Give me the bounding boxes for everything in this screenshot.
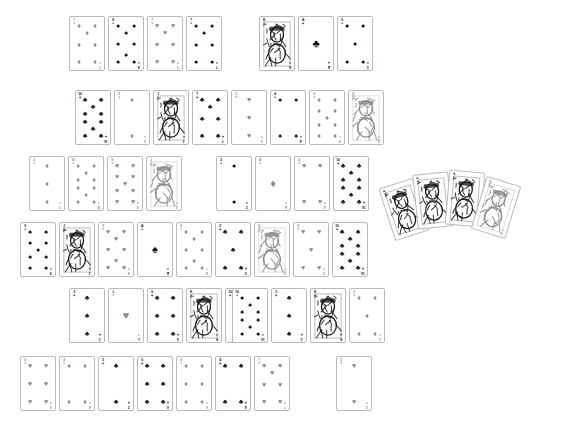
card-j-spades[interactable]: J♠J♠	[153, 90, 189, 145]
card-6-hearts[interactable]: 6♥6♥♥♥♥♥♥♥	[20, 356, 56, 411]
pip-spades: ♠	[44, 253, 48, 260]
pip-diamonds: ♦	[92, 176, 96, 183]
card-7-hearts[interactable]: 7♥7♥♥♥♥♥♥♥♥	[254, 356, 290, 411]
card-5-hearts[interactable]: 5♥5♥♥♥♥♥♥	[293, 222, 329, 277]
pip-spades: ♠	[240, 316, 244, 323]
pip-grid: ♣♣♣♣♣♣♣♣♣♣	[338, 228, 362, 271]
card-6-clubs[interactable]: 6♣6♣♣♣♣♣♣♣	[147, 288, 183, 343]
pip-clubs: ♣	[161, 380, 166, 387]
pip-clubs: ♣	[83, 110, 88, 117]
card-2-clubs[interactable]: 2♣2♣♣♣	[98, 356, 134, 411]
pip-diamonds: ♦	[84, 191, 88, 198]
card-7-clubs[interactable]: 7♣7♣♣♣♣♣♣♣♣	[192, 90, 228, 145]
pip-clubs: ♣	[239, 264, 244, 271]
card-3-hearts[interactable]: 3♥3♥♥♥♥	[231, 90, 267, 145]
card-5-clubs[interactable]: 5♣5♣♣♣♣♣♣	[215, 222, 251, 277]
pip-diamonds: ♦	[76, 176, 80, 183]
card-8-diamonds[interactable]: 8♦8♦♦♦♦♦♦♦♦♦	[176, 222, 212, 277]
card-3-diamonds[interactable]: 3♦3♦♦♦♦	[29, 156, 65, 211]
card-10-clubs[interactable]: 10♣10♣♣♣♣♣♣♣♣♣♣♣	[332, 222, 368, 277]
pip-grid: ♣♣♣♣♣♣	[153, 294, 177, 337]
card-8-spades[interactable]: 8♠8♠♠♠♠♠♠♠♠♠	[108, 16, 144, 71]
pip-clubs: ♣	[200, 96, 205, 103]
pip-clubs: ♣	[145, 398, 150, 405]
pip-hearts: ♥	[28, 380, 32, 387]
pip-diamonds: ♦	[200, 398, 204, 405]
card-10-diamonds[interactable]: 10♦10♦♦♦♦♦♦♦♦♦♦♦	[68, 156, 104, 211]
card-4-diamonds[interactable]: 4♦4♦♦♦♦♦	[59, 356, 95, 411]
pip-clubs: ♣	[99, 118, 104, 125]
card-7-diamonds[interactable]: 7♦7♦♦♦♦♦♦♦♦	[69, 16, 105, 71]
court-figure-icon	[258, 227, 286, 273]
card-k-spades[interactable]: K♠K♠	[186, 288, 222, 343]
pip-spades: ♠	[132, 58, 136, 65]
card-5-spades[interactable]: 5♠5♠♠♠♠♠♠	[337, 16, 373, 71]
card-10-clubs[interactable]: 10♣10♣♣♣♣♣♣♣♣♣♣♣	[333, 156, 369, 211]
pip-grid: ♥♥♥♥♥♥♥♥	[104, 228, 128, 271]
card-6-clubs[interactable]: 6♣6♣♣♣♣♣♣♣	[137, 356, 173, 411]
card-3-clubs[interactable]: 3♣3♣♣♣♣	[69, 288, 105, 343]
pip-diamonds: ♦	[67, 398, 71, 405]
pip-diamonds: ♦	[200, 264, 204, 271]
pip-diamonds: ♦	[76, 184, 80, 191]
pip-grid: ♣♣♣♣♣♣♣♣♣♣	[339, 162, 363, 205]
pip-clubs: ♣	[340, 264, 345, 271]
court-figure-icon	[476, 181, 516, 233]
pip-spades: ♠	[124, 51, 128, 58]
card-4-spades[interactable]: 4♠4♠♠♠♠♠	[270, 90, 306, 145]
card-9-spades[interactable]: 9♠9♠♠♠♠♠♠♠♠♠♠	[20, 222, 56, 277]
pip-diamonds: ♦	[333, 96, 337, 103]
pip-clubs: ♣	[231, 246, 236, 253]
card-4-hearts[interactable]: 4♥4♥♥♥♥♥	[294, 156, 330, 211]
pip-diamonds: ♦	[45, 162, 49, 169]
card-10-spades[interactable]: 10♠10♠♠♠♠♠♠♠♠♠♠♠	[232, 288, 268, 343]
pip-clubs: ♣	[171, 330, 176, 337]
card-a-spades[interactable]: A♠A♠♠	[137, 222, 173, 277]
pip-diamonds: ♦	[184, 362, 188, 369]
card-a-clubs[interactable]: A♣A♣♣	[298, 16, 334, 71]
card-8-hearts[interactable]: 8♥8♥♥♥♥♥♥♥♥♥	[98, 222, 134, 277]
card-9-diamonds[interactable]: 9♦9♦♦♦♦♦♦♦♦♦♦	[309, 90, 345, 145]
card-j-diamonds[interactable]: J♦J♦	[146, 156, 182, 211]
court-figure-icon	[150, 161, 178, 207]
pip-grid: ♦♦♦♦♦♦♦♦♦	[315, 96, 339, 139]
pip-grid: ♣♣♣♣	[221, 362, 245, 405]
pip-clubs: ♣	[99, 96, 104, 103]
card-a-diamonds[interactable]: A♦A♦♦	[255, 156, 291, 211]
card-4-clubs[interactable]: 4♣4♣♣♣♣♣	[215, 356, 251, 411]
card-7-hearts[interactable]: 7♥7♥♥♥♥♥♥♥♥	[147, 16, 183, 71]
card-k-clubs[interactable]: K♣K♣	[310, 288, 346, 343]
pip-clubs: ♣	[155, 312, 160, 319]
card-q-diamonds[interactable]: Q♦Q♦	[254, 222, 290, 277]
card-q-hearts[interactable]: Q♥Q♥	[348, 90, 384, 145]
pip-spades: ♠	[248, 301, 252, 308]
pip-clubs: ♣	[341, 184, 346, 191]
pip-grid: ♦	[261, 162, 285, 205]
card-2-diamonds[interactable]: 2♦2♦♦♦	[114, 90, 150, 145]
card-2-hearts[interactable]: 2♥2♥♥♥	[336, 356, 372, 411]
pip-hearts: ♥	[301, 228, 305, 235]
pip-clubs: ♣	[341, 176, 346, 183]
pip-clubs: ♣	[239, 362, 244, 369]
pip-hearts: ♥	[318, 162, 322, 169]
card-6-diamonds[interactable]: 6♦6♦♦♦♦♦♦♦	[176, 356, 212, 411]
pip-hearts: ♥	[247, 96, 251, 103]
pip-spades: ♠	[256, 308, 260, 315]
card-7-spades[interactable]: 7♠7♠♠♠♠♠♠♠♠	[186, 16, 222, 71]
pip-grid: ♣♣♣♣♣♣	[143, 362, 167, 405]
pip-grid: ♦♦♦♦♦♦♦♦♦♦	[74, 162, 98, 205]
card-3-clubs[interactable]: 3♣3♣♣♣♣	[271, 288, 307, 343]
pip-diamonds: ♦	[200, 246, 204, 253]
pip-diamonds: ♦	[93, 22, 97, 29]
card-9-hearts[interactable]: 9♥9♥♥♥♥♥♥♥♥♥♥	[107, 156, 143, 211]
card-5-diamonds[interactable]: 5♦5♦♦♦♦♦♦	[349, 288, 385, 343]
card-2-spades[interactable]: 2♠2♠♠♠	[216, 156, 252, 211]
pip-hearts: ♥	[155, 58, 159, 65]
card-j-clubs[interactable]: J♣J♣	[59, 222, 95, 277]
card-a-hearts[interactable]: A♥A♥♥	[108, 288, 144, 343]
pip-spades: ♠	[278, 132, 282, 139]
pip-grid: ♣♣♣	[277, 294, 301, 337]
card-10-clubs[interactable]: 10♣10♣♣♣♣♣♣♣♣♣♣♣	[75, 90, 111, 145]
card-k-spades[interactable]: K♠K♠	[259, 16, 295, 71]
pip-spades: ♠	[132, 22, 136, 29]
